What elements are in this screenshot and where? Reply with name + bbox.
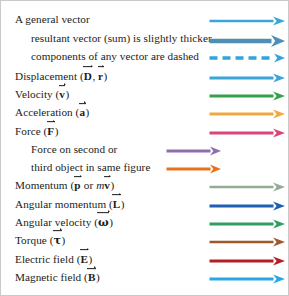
legend-label-suffix: ) — [88, 253, 92, 265]
vector-symbol-tau: τ — [53, 234, 61, 248]
legend-label-suffix: ) — [55, 125, 59, 137]
vector-notation-legend-figure: A general vectorresultant vector (sum) i… — [0, 0, 289, 296]
vector-arrow-magnetic-field-head — [273, 275, 285, 284]
vector-arrow-angular-momentum-svg — [209, 199, 286, 213]
vector-arrow-electric-field — [209, 254, 286, 266]
legend-label-general-vector: A general vector — [15, 14, 90, 26]
legend-row-list: A general vectorresultant vector (sum) i… — [1, 1, 288, 295]
vector-arrow-angular-momentum-head — [273, 201, 285, 210]
vector-arrow-displacement-svg — [209, 71, 286, 85]
legend-label-displacement: Displacement (D, r) — [15, 71, 107, 83]
legend-label-text: third object in same figure — [31, 161, 150, 173]
vector-arrow-components-dashed — [209, 51, 286, 63]
vector-arrow-acceleration-svg — [209, 107, 286, 121]
vector-symbol-p: p — [74, 180, 81, 192]
legend-label-acceleration: Acceleration (a) — [15, 107, 89, 119]
legend-label-suffix: ) — [104, 70, 108, 82]
vector-arrow-momentum-head — [273, 183, 285, 192]
vector-arrow-force-svg — [209, 126, 286, 140]
legend-row-magnetic-field: Magnetic field (B) — [1, 267, 288, 289]
legend-label-resultant-vector: resultant vector (sum) is slightly thick… — [31, 33, 212, 45]
legend-label-magnetic-field: Magnetic field (B) — [15, 272, 100, 284]
vector-symbol-r: r — [98, 70, 104, 82]
vector-arrow-resultant-vector-head — [271, 35, 285, 47]
vector-arrow-torque-svg — [209, 235, 286, 249]
legend-label-text: Velocity ( — [15, 88, 59, 100]
vector-arrow-velocity — [209, 89, 286, 101]
vector-arrow-momentum-svg — [209, 180, 286, 194]
vector-arrow-electric-field-svg — [209, 254, 286, 268]
vector-arrow-magnetic-field — [209, 272, 286, 284]
vector-arrow-displacement-head — [273, 73, 285, 82]
vector-symbol-v: v — [59, 88, 65, 100]
legend-label-suffix: ) — [109, 216, 113, 228]
vector-arrow-acceleration — [209, 107, 286, 119]
vector-arrow-force — [209, 126, 286, 138]
vector-arrow-general-vector — [209, 14, 286, 26]
legend-label-text: Displacement ( — [15, 70, 84, 82]
vector-arrow-force-head — [273, 128, 285, 137]
legend-label-suffix: ) — [121, 198, 125, 210]
legend-label-text: Torque ( — [15, 235, 53, 247]
legend-label-text: Momentum ( — [15, 180, 74, 192]
legend-label-text: Magnetic field ( — [15, 271, 88, 283]
legend-label-suffix: ) — [86, 106, 90, 118]
legend-label-text: Angular velocity ( — [15, 216, 98, 228]
legend-label-suffix: ) — [62, 235, 66, 247]
legend-label-velocity: Velocity (v) — [15, 89, 69, 101]
vector-arrow-displacement — [209, 71, 286, 83]
symbol-separator: or — [81, 180, 96, 192]
vector-arrow-resultant-vector — [209, 33, 286, 45]
vector-symbol-omega: ω — [98, 215, 109, 229]
vector-arrow-force-second-object-head — [210, 146, 221, 155]
legend-label-text: components of any vector are dashed — [31, 51, 199, 63]
legend-label-text: Force ( — [15, 125, 47, 137]
legend-label-torque: Torque (τ) — [15, 236, 65, 248]
legend-label-force: Force (F) — [15, 126, 59, 138]
vector-symbol-e: E — [80, 253, 88, 265]
vector-arrow-velocity-svg — [209, 89, 286, 103]
vector-symbol-a: a — [79, 106, 85, 118]
legend-label-angular-velocity: Angular velocity (ω) — [15, 217, 113, 229]
vector-arrow-force-second-object — [166, 144, 222, 156]
legend-label-momentum: Momentum (p or mv) — [15, 181, 114, 193]
legend-label-text: Angular momentum ( — [15, 198, 113, 210]
legend-label-components-dashed: components of any vector are dashed — [31, 52, 199, 64]
vector-arrow-force-third-object — [166, 162, 222, 174]
vector-arrow-momentum — [209, 180, 286, 192]
vector-symbol-l: L — [113, 198, 121, 210]
vector-symbol-v: v — [104, 180, 110, 192]
vector-arrow-angular-momentum — [209, 199, 286, 211]
vector-symbol-b: B — [88, 271, 96, 283]
legend-label-text: Force on second or — [31, 143, 117, 155]
vector-arrow-components-dashed-svg — [209, 51, 286, 65]
legend-label-angular-momentum: Angular momentum (L) — [15, 199, 125, 211]
vector-arrow-torque — [209, 235, 286, 247]
legend-label-electric-field: Electric field (E) — [15, 254, 92, 266]
vector-arrow-torque-head — [273, 238, 285, 247]
vector-arrow-force-second-object-svg — [166, 144, 222, 158]
legend-label-text: Electric field ( — [15, 253, 80, 265]
vector-arrow-general-vector-head — [273, 17, 285, 26]
legend-label-suffix: ) — [110, 180, 114, 192]
vector-arrow-magnetic-field-svg — [209, 272, 286, 286]
legend-label-suffix: ) — [65, 88, 69, 100]
legend-label-text: resultant vector (sum) is slightly thick… — [31, 32, 212, 44]
vector-arrow-force-third-object-svg — [166, 162, 222, 176]
legend-label-text: A general vector — [15, 13, 90, 25]
legend-label-force-third-object: third object in same figure — [31, 162, 150, 174]
vector-arrow-velocity-head — [273, 91, 285, 100]
vector-symbol-f: F — [47, 125, 54, 137]
vector-symbol-d: D — [84, 70, 93, 82]
vector-arrow-angular-velocity-head — [273, 220, 285, 229]
vector-arrow-angular-velocity-svg — [209, 217, 286, 231]
vector-arrow-acceleration-head — [273, 110, 285, 119]
vector-arrow-general-vector-svg — [209, 14, 286, 28]
vector-arrow-components-dashed-head — [274, 54, 285, 63]
legend-label-text: Acceleration ( — [15, 106, 79, 118]
legend-label-suffix: ) — [96, 271, 100, 283]
vector-arrow-force-third-object-head — [210, 165, 221, 174]
legend-label-force-second-object: Force on second or — [31, 144, 117, 156]
vector-arrow-electric-field-head — [273, 256, 285, 265]
vector-arrow-angular-velocity — [209, 217, 286, 229]
